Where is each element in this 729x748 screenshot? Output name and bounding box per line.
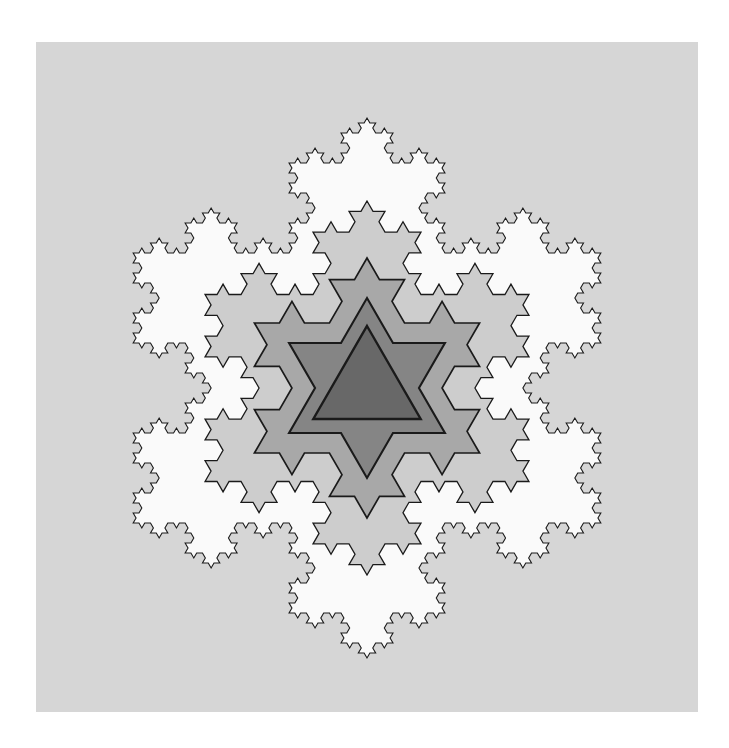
koch-snowflake-figure (0, 0, 729, 748)
koch-layer-group (133, 118, 601, 658)
figure-root (0, 0, 729, 748)
